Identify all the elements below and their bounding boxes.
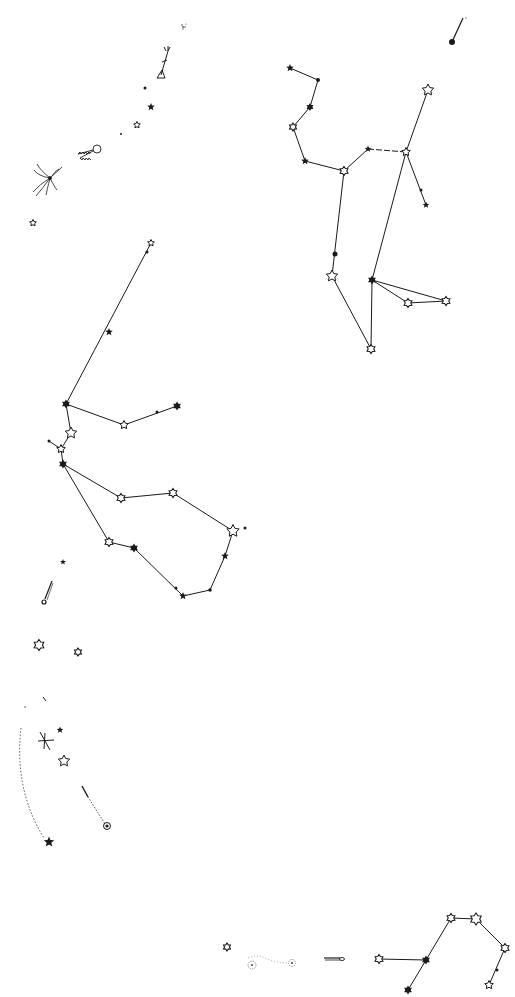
decorative-drawings xyxy=(20,17,467,963)
filled-hexagram-icon xyxy=(62,400,70,409)
open-star-icon xyxy=(148,240,155,246)
horizontal-comet-icon xyxy=(324,958,345,961)
constellation-line xyxy=(310,80,318,107)
stars xyxy=(30,26,509,995)
open-hexagram-icon xyxy=(34,640,44,651)
constellation-line xyxy=(372,280,408,303)
open-hexagram-icon xyxy=(447,914,455,923)
open-star-icon xyxy=(326,270,337,281)
star-dot-icon xyxy=(156,411,159,414)
open-star-icon xyxy=(134,122,141,128)
constellation-line xyxy=(371,280,372,349)
nebula-icon xyxy=(248,961,256,969)
constellation-line xyxy=(408,960,426,990)
constellation-line xyxy=(63,464,121,498)
comet-icon xyxy=(42,581,53,604)
open-hexagram-icon xyxy=(367,345,375,354)
constellation-line xyxy=(408,301,446,303)
star-dot-icon xyxy=(120,133,122,135)
nebula-icon xyxy=(289,960,296,967)
open-star-icon xyxy=(58,755,69,766)
constellation-line xyxy=(372,280,446,301)
cross-icon xyxy=(38,732,54,750)
constellation-line xyxy=(406,90,428,152)
filled-star-icon xyxy=(44,837,54,847)
filled-star-icon xyxy=(147,103,155,110)
star-dot-icon xyxy=(175,587,178,590)
constellation-line xyxy=(183,590,210,596)
open-star-icon xyxy=(485,981,494,989)
filled-star-icon xyxy=(57,727,64,733)
open-star-icon xyxy=(57,445,66,453)
open-star-icon xyxy=(30,220,37,226)
constellation-line xyxy=(293,127,305,161)
fuzzy-comet-icon xyxy=(78,145,101,160)
comet-icon xyxy=(82,786,105,824)
open-hexagram-icon xyxy=(404,299,412,308)
star-dot-icon xyxy=(449,39,455,45)
constellation-line xyxy=(66,404,124,425)
open-star-icon xyxy=(227,525,239,537)
filled-hexagram-icon xyxy=(368,276,376,285)
star-dot-icon xyxy=(144,87,147,90)
constellation-line xyxy=(293,107,310,127)
filled-star-icon xyxy=(423,202,430,208)
constellation-line xyxy=(305,161,344,171)
constellation-line xyxy=(489,948,505,985)
star-dot-icon xyxy=(48,440,51,443)
filled-hexagram-icon xyxy=(404,986,412,995)
filled-star-icon xyxy=(221,552,229,559)
star-dot-icon xyxy=(316,78,320,82)
star-dot-icon xyxy=(420,189,423,192)
constellation-line xyxy=(344,149,368,171)
constellation-lines xyxy=(49,68,505,990)
filled-hexagram-icon xyxy=(59,460,67,469)
constellation-line xyxy=(332,276,371,349)
tick-mark-icon xyxy=(24,697,46,708)
constellation-line xyxy=(121,493,173,498)
star-chart xyxy=(0,0,515,997)
filled-star-icon xyxy=(301,157,309,164)
open-hexagram-icon xyxy=(375,955,383,964)
constellation-line xyxy=(426,918,451,960)
star-dot-icon xyxy=(244,527,247,530)
open-star-icon xyxy=(120,421,129,429)
open-star-icon xyxy=(422,84,433,95)
constellation-line xyxy=(210,556,225,590)
filled-star-icon xyxy=(286,64,294,71)
open-hexagram-icon xyxy=(105,538,113,547)
comet-icon xyxy=(452,17,467,42)
star-cluster-icon xyxy=(181,23,186,29)
constellation-line xyxy=(332,171,344,276)
tail-comet-icon xyxy=(33,164,62,196)
constellation-line xyxy=(406,152,426,205)
constellation-line xyxy=(290,68,318,80)
open-star-icon xyxy=(65,427,76,438)
star-dot-icon xyxy=(146,251,149,254)
star-dot-icon xyxy=(496,969,499,972)
open-hexagram-icon xyxy=(75,648,82,656)
arrow-figure-icon xyxy=(157,46,170,78)
dotted-trail-icon xyxy=(248,956,288,963)
star-dot-icon xyxy=(208,588,212,592)
open-hexagram-icon xyxy=(442,297,450,306)
filled-hexagram-icon xyxy=(173,402,181,411)
constellation-line xyxy=(173,493,233,531)
constellation-line xyxy=(476,919,505,948)
star-cluster-icon xyxy=(182,26,184,28)
star-chart-canvas xyxy=(0,0,515,997)
filled-star-icon xyxy=(60,559,66,564)
constellation-line xyxy=(63,464,109,542)
spiral-galaxy-icon xyxy=(104,823,111,830)
open-hexagram-icon xyxy=(169,489,177,498)
constellation-line xyxy=(379,959,426,960)
open-hexagram-icon xyxy=(224,943,231,951)
constellation-line xyxy=(66,243,151,404)
star-dot-icon xyxy=(333,252,338,257)
open-hexagram-icon xyxy=(117,494,125,503)
constellation-line xyxy=(368,149,406,152)
constellation-line xyxy=(124,406,177,425)
constellation-line xyxy=(372,152,406,280)
open-star-icon xyxy=(402,148,411,156)
dotted-trail-icon xyxy=(20,728,44,838)
